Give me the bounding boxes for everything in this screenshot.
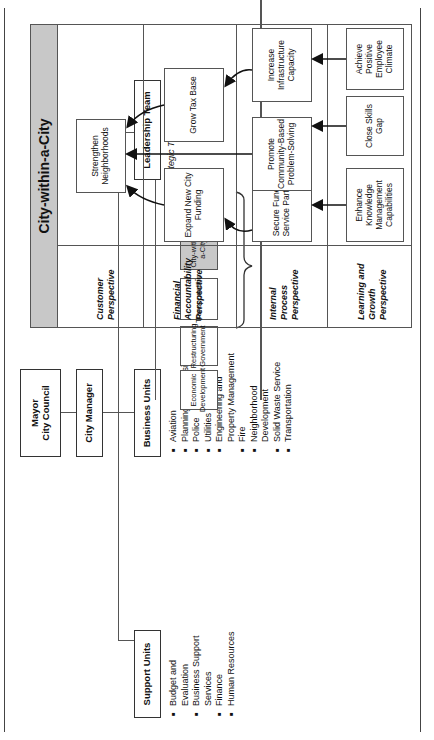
causal-arrows <box>0 0 434 740</box>
rotated-diagram-canvas: Mayor City Council City Manager Support … <box>0 0 434 740</box>
